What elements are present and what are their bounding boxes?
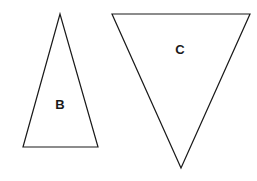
- triangle-c: [112, 14, 250, 168]
- diagram-canvas: B C: [0, 0, 257, 181]
- triangle-b: [23, 14, 98, 147]
- triangle-b-label: B: [55, 97, 64, 112]
- triangle-c-label: C: [175, 42, 185, 57]
